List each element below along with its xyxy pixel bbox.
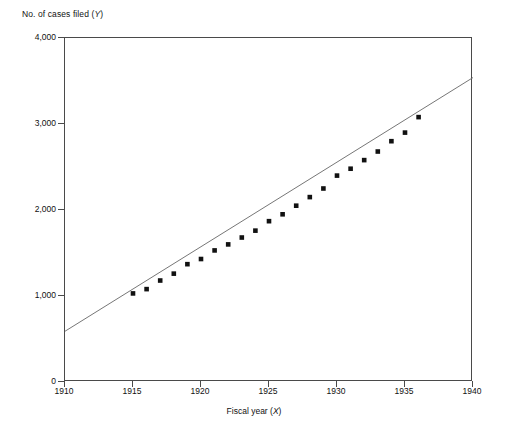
data-point bbox=[403, 130, 408, 135]
plot-area bbox=[64, 37, 472, 381]
data-point bbox=[321, 186, 326, 191]
fit-line-group bbox=[65, 78, 473, 332]
x-tick-label-1910: 1910 bbox=[44, 386, 84, 396]
y-tick-label-0: 0 bbox=[12, 376, 56, 386]
data-point bbox=[267, 219, 272, 224]
x-axis-title-text: Fiscal year ( bbox=[227, 406, 273, 416]
data-point-group bbox=[131, 115, 421, 296]
x-axis-title: Fiscal year (X) bbox=[0, 406, 508, 416]
data-point bbox=[199, 257, 204, 262]
data-point bbox=[172, 271, 177, 276]
data-point bbox=[280, 212, 285, 217]
data-point bbox=[158, 278, 163, 283]
x-axis-variable: X bbox=[273, 406, 279, 416]
y-tick-label-1000: 1,000 bbox=[12, 290, 56, 300]
data-point bbox=[185, 262, 190, 267]
plot-svg bbox=[65, 38, 473, 382]
data-point bbox=[416, 115, 421, 120]
data-point bbox=[335, 173, 340, 178]
data-point bbox=[131, 291, 136, 296]
data-point bbox=[308, 195, 313, 200]
x-tick-label-1920: 1920 bbox=[180, 386, 220, 396]
data-point bbox=[144, 287, 149, 292]
data-point bbox=[253, 228, 258, 233]
data-point bbox=[389, 139, 394, 144]
data-point bbox=[376, 149, 381, 154]
regression-line bbox=[65, 78, 473, 332]
y-tick-label-4000: 4,000 bbox=[12, 32, 56, 42]
y-tick-label-2000: 2,000 bbox=[12, 204, 56, 214]
x-tick-label-1935: 1935 bbox=[384, 386, 424, 396]
data-point bbox=[240, 235, 245, 240]
x-tick-label-1930: 1930 bbox=[316, 386, 356, 396]
data-point bbox=[294, 203, 299, 208]
chart-figure: No. of cases filed (Y) 4,000 3,000 2,000… bbox=[0, 0, 508, 439]
data-point bbox=[362, 158, 367, 163]
data-point bbox=[348, 166, 353, 171]
x-tick-label-1915: 1915 bbox=[112, 386, 152, 396]
y-tick-label-3000: 3,000 bbox=[12, 118, 56, 128]
data-point bbox=[226, 242, 231, 247]
data-point bbox=[212, 248, 217, 253]
x-tick-label-1925: 1925 bbox=[248, 386, 288, 396]
x-tick-label-1940: 1940 bbox=[452, 386, 492, 396]
